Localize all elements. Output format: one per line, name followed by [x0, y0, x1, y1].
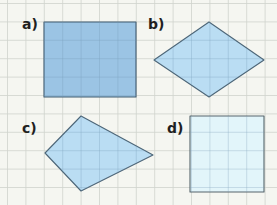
- shape-a-rectangle: [44, 22, 136, 97]
- quadrilateral-figure: a) b) c) d): [0, 0, 277, 205]
- shapes-layer: a) b) c) d): [0, 0, 277, 205]
- shape-a-label: a): [22, 16, 38, 32]
- shape-b-label: b): [148, 16, 164, 32]
- shape-d-label: d): [167, 120, 183, 136]
- shape-c-kite: [45, 116, 153, 191]
- shape-c-label: c): [22, 120, 37, 136]
- shape-b-rhombus: [154, 22, 264, 97]
- shape-d-group: d): [0, 0, 277, 205]
- shape-d-square: [190, 116, 264, 192]
